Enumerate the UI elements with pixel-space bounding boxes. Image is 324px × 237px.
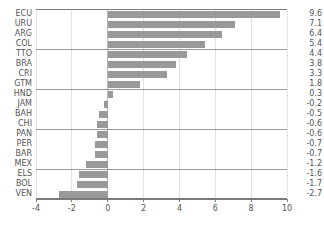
- value-label-arg: 6.4: [292, 29, 322, 39]
- bar-row: [36, 89, 287, 99]
- bar-bra: [108, 61, 176, 68]
- bar-row: [36, 189, 287, 199]
- category-label-pan: PAN: [0, 129, 32, 139]
- bar-gtm: [108, 81, 140, 88]
- bar-jam: [104, 101, 108, 108]
- value-label-bol: -1.7: [292, 179, 322, 189]
- bar-row: [36, 99, 287, 109]
- bar-arg: [108, 31, 223, 38]
- bar-ecu: [108, 11, 280, 18]
- value-label-ven: -2.7: [292, 189, 322, 199]
- category-label-per: PER: [0, 139, 32, 149]
- x-tick-label-4: 4: [167, 204, 191, 214]
- category-label-gtm: GTM: [0, 79, 32, 89]
- x-tick-6: [215, 199, 216, 202]
- x-tick-label-6: 6: [203, 204, 227, 214]
- category-label-col: COL: [0, 39, 32, 49]
- bar-row: [36, 9, 287, 19]
- bar-uru: [108, 21, 235, 28]
- category-label-bra: BRA: [0, 59, 32, 69]
- value-label-jam: -0.2: [292, 99, 322, 109]
- x-tick-8: [251, 199, 252, 202]
- value-label-uru: 7.1: [292, 19, 322, 29]
- x-tick-label-10: 10: [275, 204, 299, 214]
- bar-row: [36, 39, 287, 49]
- value-label-bar: -0.7: [292, 149, 322, 159]
- value-label-tto: 4.4: [292, 49, 322, 59]
- bar-row: [36, 69, 287, 79]
- bar-chi: [97, 121, 108, 128]
- category-label-arg: ARG: [0, 29, 32, 39]
- bar-row: [36, 119, 287, 129]
- bar-ven: [59, 191, 107, 198]
- bar-row: [36, 169, 287, 179]
- bar-row: [36, 79, 287, 89]
- x-tick-2: [143, 199, 144, 202]
- category-label-jam: JAM: [0, 99, 32, 109]
- value-label-els: -1.6: [292, 169, 322, 179]
- plot-area: [36, 9, 287, 199]
- bar-pan: [97, 131, 108, 138]
- category-label-uru: URU: [0, 19, 32, 29]
- category-label-bol: BOL: [0, 179, 32, 189]
- x-tick-label--2: -2: [60, 204, 84, 214]
- category-label-bar: BAR: [0, 149, 32, 159]
- bar-per: [95, 141, 108, 148]
- category-label-tto: TTO: [0, 49, 32, 59]
- category-label-mex: MEX: [0, 159, 32, 169]
- category-label-chi: CHI: [0, 119, 32, 129]
- x-axis-line: [36, 199, 287, 200]
- bar-bar: [95, 151, 108, 158]
- value-label-cri: 3.3: [292, 69, 322, 79]
- bar-mex: [86, 161, 108, 168]
- value-label-bra: 3.8: [292, 59, 322, 69]
- bar-row: [36, 139, 287, 149]
- category-label-cri: CRI: [0, 69, 32, 79]
- bar-col: [108, 41, 205, 48]
- x-tick-label-2: 2: [132, 204, 156, 214]
- bar-row: [36, 59, 287, 69]
- x-tick-10: [287, 199, 288, 202]
- bar-tto: [108, 51, 187, 58]
- value-label-pan: -0.6: [292, 129, 322, 139]
- category-label-bah: BAH: [0, 109, 32, 119]
- bar-hnd: [108, 91, 113, 98]
- value-label-col: 5.4: [292, 39, 322, 49]
- chart-page: ECUURUARGCOLTTOBRACRIGTMHNDJAMBAHCHIPANP…: [0, 0, 324, 237]
- x-tick--4: [36, 199, 37, 202]
- bar-bah: [99, 111, 108, 118]
- bar-row: [36, 109, 287, 119]
- x-tick-label-0: 0: [96, 204, 120, 214]
- x-axis: -4-20246810: [36, 199, 287, 229]
- value-label-per: -0.7: [292, 139, 322, 149]
- bar-row: [36, 19, 287, 29]
- value-label-chi: -0.6: [292, 119, 322, 129]
- category-label-hnd: HND: [0, 89, 32, 99]
- value-label-bah: -0.5: [292, 109, 322, 119]
- bar-row: [36, 159, 287, 169]
- bar-row: [36, 179, 287, 189]
- bar-row: [36, 29, 287, 39]
- category-label-ecu: ECU: [0, 9, 32, 19]
- x-tick-4: [179, 199, 180, 202]
- value-label-ecu: 9.6: [292, 9, 322, 19]
- bar-els: [79, 171, 108, 178]
- category-label-els: ELS: [0, 169, 32, 179]
- x-tick-label-8: 8: [239, 204, 263, 214]
- category-label-ven: VEN: [0, 189, 32, 199]
- value-label-mex: -1.2: [292, 159, 322, 169]
- x-tick-0: [107, 199, 108, 202]
- x-tick--2: [71, 199, 72, 202]
- x-tick-label--4: -4: [24, 204, 48, 214]
- bar-row: [36, 149, 287, 159]
- bar-bol: [77, 181, 107, 188]
- bar-cri: [108, 71, 167, 78]
- bar-row: [36, 49, 287, 59]
- value-label-hnd: 0.3: [292, 89, 322, 99]
- value-label-gtm: 1.8: [292, 79, 322, 89]
- bar-row: [36, 129, 287, 139]
